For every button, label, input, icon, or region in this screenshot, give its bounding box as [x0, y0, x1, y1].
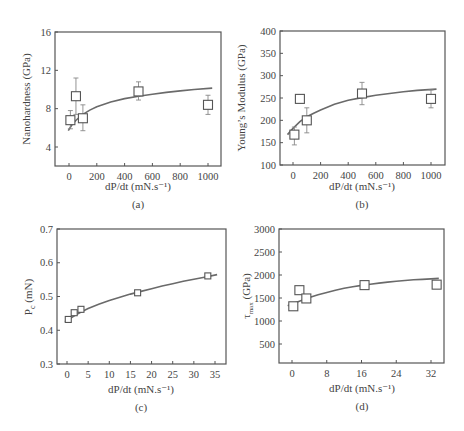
panel-b-xlabel: dP/dt (mN.s⁻¹) — [329, 180, 395, 193]
data-point-square — [295, 94, 304, 103]
data-point-square — [78, 306, 84, 312]
y-tick-label: 0.7 — [40, 224, 53, 235]
data-point-square — [78, 114, 87, 123]
y-tick-label: 200 — [260, 115, 276, 126]
x-tick-label: 0 — [290, 170, 295, 181]
x-tick-label: 24 — [391, 368, 402, 379]
panel-d-xlabel: dP/dt (mN.s⁻¹) — [329, 382, 395, 395]
panel-a-caption: (a) — [132, 198, 145, 211]
data-point-square — [302, 116, 311, 125]
panel-c-xlabel: dP/dt (mN.s⁻¹) — [108, 383, 174, 396]
x-tick-label: 0 — [64, 369, 69, 380]
y-tick-label: 2500 — [254, 247, 275, 258]
panel-a-xlabel: dP/dt (mN.s⁻¹) — [105, 180, 171, 193]
panel-c-critical-load: 051015202530350.30.40.50.60.7 — [40, 224, 226, 381]
x-tick-label: 15 — [125, 369, 136, 380]
y-tick-label: 12 — [41, 65, 52, 76]
panel-d-ylabel-sub: max — [247, 302, 255, 315]
panel-d-caption: (d) — [356, 400, 369, 413]
data-point-square — [204, 100, 213, 109]
data-point-square — [290, 130, 299, 139]
panel-c-caption: (c) — [135, 401, 148, 414]
x-tick-label: 0 — [66, 171, 71, 182]
y-tick-label: 16 — [41, 27, 52, 38]
data-point-square — [358, 89, 367, 98]
y-tick-label: 1000 — [254, 316, 275, 327]
x-tick-label: 35 — [210, 369, 221, 380]
data-point-square — [432, 280, 441, 289]
panel-c-ylabel: Pc (mN) — [22, 279, 37, 316]
fit-curve — [65, 275, 217, 322]
x-tick-label: 1000 — [198, 171, 219, 182]
panel-b-ylabel: Young’s Modulus (GPa) — [235, 44, 248, 151]
x-tick-label: 20 — [146, 369, 157, 380]
x-tick-label: 800 — [172, 171, 188, 182]
y-tick-label: 1500 — [254, 293, 275, 304]
x-tick-label: 8 — [324, 368, 329, 379]
data-point-square — [289, 302, 298, 311]
panel-a-ylabel: Nanohardness (GPa) — [20, 53, 33, 145]
panel-a-nanohardness: 02004006008001000481216 — [41, 27, 222, 183]
x-tick-label: 0 — [289, 368, 294, 379]
x-tick-label: 1000 — [421, 170, 442, 181]
panel-d-tau-max: 0816243250010001500200025003000 — [254, 224, 444, 380]
y-tick-label: 3000 — [254, 224, 275, 235]
y-tick-label: 300 — [260, 70, 276, 81]
x-tick-label: 200 — [313, 170, 329, 181]
figure: 02004006008001000481216 0200400600800100… — [0, 0, 464, 431]
panel-d-ylabel-unit: (GPa) — [240, 273, 253, 302]
data-point-square — [66, 116, 75, 125]
y-tick-label: 350 — [260, 48, 276, 59]
x-tick-label: 5 — [86, 369, 91, 380]
y-tick-label: 2000 — [254, 270, 275, 281]
data-point-square — [135, 290, 141, 296]
y-tick-label: 4 — [46, 142, 52, 153]
y-tick-label: 8 — [46, 103, 51, 114]
data-point-square — [427, 94, 436, 103]
y-tick-label: 150 — [260, 137, 276, 148]
x-tick-label: 16 — [356, 368, 367, 379]
x-tick-label: 32 — [426, 368, 437, 379]
plot-frame — [57, 229, 226, 364]
x-tick-label: 30 — [189, 369, 200, 380]
y-tick-label: 0.3 — [40, 359, 53, 370]
x-tick-label: 200 — [89, 171, 105, 182]
y-tick-label: 0.4 — [40, 325, 54, 336]
data-point-square — [205, 273, 211, 279]
x-tick-label: 10 — [104, 369, 115, 380]
data-point-square — [65, 316, 71, 322]
panel-b-youngs-modulus: 02004006008001000100150200250300350400 — [260, 26, 445, 182]
data-point-square — [295, 286, 304, 295]
y-tick-label: 250 — [260, 93, 276, 104]
data-point-square — [302, 294, 311, 303]
panel-c-ylabel-unit: (mN) — [22, 279, 35, 306]
y-tick-label: 400 — [260, 26, 276, 37]
panel-b-caption: (b) — [356, 198, 369, 211]
y-tick-label: 0.5 — [40, 291, 53, 302]
x-tick-label: 800 — [396, 170, 412, 181]
data-point-square — [134, 87, 143, 96]
panel-d-ylabel: τmax (GPa) — [240, 273, 255, 319]
y-tick-label: 500 — [259, 339, 275, 350]
y-tick-label: 100 — [260, 160, 276, 171]
data-point-square — [71, 310, 77, 316]
data-point-square — [360, 281, 369, 290]
x-tick-label: 25 — [167, 369, 178, 380]
y-tick-label: 0.6 — [40, 257, 53, 268]
data-point-square — [71, 92, 80, 101]
